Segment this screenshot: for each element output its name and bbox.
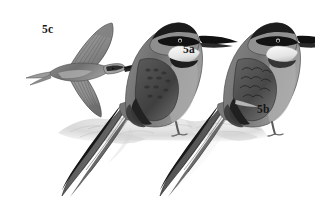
bird-illustration-plate: 5c 5a 5b: [0, 0, 315, 216]
figure-label-5c: 5c: [42, 24, 53, 36]
figure-label-5a: 5a: [183, 44, 195, 56]
figure-label-5b: 5b: [257, 104, 270, 116]
